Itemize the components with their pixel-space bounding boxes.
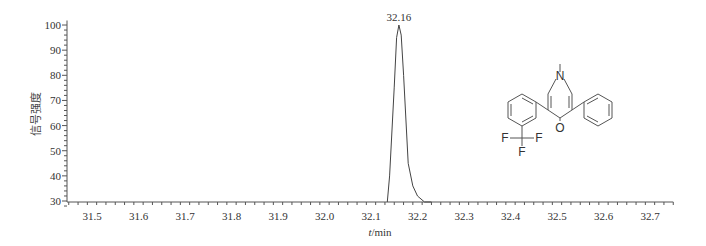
x-tick-label: 32.3: [454, 210, 474, 222]
y-tick-label: 80: [50, 69, 62, 81]
x-tick-label: 32.4: [501, 210, 521, 222]
x-axis-title: t/min: [368, 226, 392, 238]
atom-label-f1: F: [501, 131, 508, 145]
y-tick-label: 30: [50, 195, 62, 207]
x-tick-label: 32.2: [408, 210, 427, 222]
x-tick-label: 32.1: [361, 210, 380, 222]
y-axis: 30405060708090100: [45, 19, 68, 207]
y-tick-label: 100: [45, 19, 62, 31]
y-tick-label: 70: [50, 94, 62, 106]
peak-label: 32.16: [387, 11, 412, 23]
x-tick-label: 32.7: [640, 210, 660, 222]
y-tick-label: 40: [50, 170, 62, 182]
atom-label-f2: F: [535, 131, 542, 145]
y-tick-label: 50: [50, 145, 62, 157]
y-tick-label: 90: [50, 44, 62, 56]
x-tick-label: 32.5: [547, 210, 567, 222]
x-tick-label: 32.0: [315, 210, 335, 222]
x-axis: 31.531.631.731.831.932.032.132.232.332.4…: [67, 202, 673, 222]
x-tick-label: 31.5: [82, 210, 102, 222]
chromatogram-trace: [387, 25, 431, 202]
y-tick-label: 60: [50, 120, 62, 132]
y-axis-title: 信号强度: [29, 92, 43, 136]
atom-label-o: O: [555, 121, 564, 135]
x-tick-label: 31.9: [268, 210, 288, 222]
x-tick-label: 31.8: [222, 210, 242, 222]
atom-label-f3: F: [518, 145, 525, 159]
x-tick-label: 31.6: [129, 210, 149, 222]
atom-label-n: N: [556, 69, 565, 83]
chromatogram-chart: 30405060708090100 31.531.631.731.831.932…: [0, 0, 706, 246]
x-tick-label: 32.6: [594, 210, 614, 222]
x-tick-label: 31.7: [175, 210, 195, 222]
